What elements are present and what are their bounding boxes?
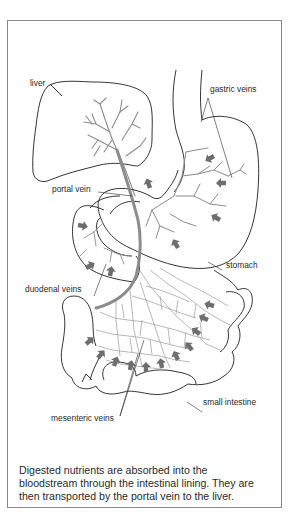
flow-arrow-icon (203, 152, 217, 166)
liver-vein-branches (84, 98, 146, 196)
caption-line-1: Digested nutrients are absorbed into the (19, 464, 281, 477)
mesenteric-vein-network (96, 268, 232, 370)
flow-arrow-icon (182, 339, 196, 353)
gastric-vein-branches (146, 148, 246, 238)
flow-arrows (77, 152, 226, 372)
flow-arrow-icon (169, 349, 182, 362)
flow-arrow-icon (142, 177, 155, 190)
flow-arrow-icon (197, 311, 210, 324)
flow-arrow-icon (105, 265, 117, 277)
label-mesenteric-veins: mesenteric veins (51, 414, 114, 422)
flow-arrow-icon (94, 347, 108, 361)
flow-arrow-icon (169, 237, 183, 251)
label-liver: liver (30, 79, 45, 87)
stomach-organ (90, 70, 259, 268)
duodenum-organ (73, 206, 140, 282)
caption-line-3: then transported by the portal vein to t… (19, 490, 281, 503)
portal-vein (96, 150, 140, 308)
label-duodenal-veins: duodenal veins (25, 285, 81, 293)
label-stomach: stomach (226, 261, 258, 269)
flow-arrow-icon (209, 211, 223, 225)
label-small-intestine: small intestine (203, 398, 256, 406)
flow-arrow-icon (77, 220, 89, 232)
liver-organ (33, 81, 153, 181)
label-portal-vein: portal vein (52, 185, 91, 193)
caption-line-2: bloodstream through the intestinal linin… (19, 477, 281, 490)
flow-arrow-icon (203, 299, 215, 311)
flow-arrow-icon (141, 362, 151, 372)
flow-arrow-icon (216, 178, 226, 188)
label-gastric-veins: gastric veins (210, 85, 257, 93)
flow-arrow-icon (155, 357, 167, 369)
figure-caption: Digested nutrients are absorbed into the… (19, 464, 281, 503)
